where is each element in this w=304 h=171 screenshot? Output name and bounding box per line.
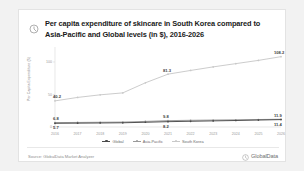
- chart-legend: GlobalAsia-PacificSouth Korea: [19, 139, 287, 144]
- data-point-label: 11.4: [274, 122, 282, 127]
- line-marker-icon: [102, 141, 110, 142]
- data-point-label: 8.2: [163, 124, 169, 129]
- legend-item-global[interactable]: Global: [102, 139, 123, 144]
- x-tick-label: 2019: [115, 132, 131, 136]
- x-tick-label: 2024: [228, 132, 244, 136]
- brand-logo: GlobalData: [242, 147, 278, 165]
- data-point-label: 6.8: [53, 116, 59, 121]
- line-marker-icon: [172, 141, 180, 142]
- legend-item-south-korea[interactable]: South Korea: [172, 139, 204, 144]
- x-tick-label: 2018: [92, 132, 108, 136]
- x-tick-label: 2017: [70, 132, 86, 136]
- data-point-label: 40.2: [53, 94, 61, 99]
- data-point-label: 81.3: [163, 68, 171, 73]
- legend-label: Asia-Pacific: [143, 139, 163, 144]
- legend-label: Global: [112, 139, 123, 144]
- x-tick-label: 2026: [273, 132, 289, 136]
- line-marker-icon: [133, 141, 141, 142]
- legend-item-asia-pacific[interactable]: Asia-Pacific: [133, 139, 163, 144]
- chart-svg: [19, 43, 287, 131]
- page-title: Per capita expenditure of skincare in So…: [45, 19, 275, 40]
- data-point-label: 11.9: [274, 113, 282, 118]
- plot-area: Per Capita Expenditure ($) 050100 40.281…: [19, 43, 287, 131]
- data-point-label: 5.7: [53, 125, 59, 130]
- chart-footer: Source: GlobalData Market Analyzer Globa…: [19, 149, 287, 163]
- x-tick-label: 2025: [250, 132, 266, 136]
- globaldata-logo-icon: [242, 147, 249, 165]
- data-point-label: 9.8: [163, 114, 169, 119]
- x-tick-label: 2023: [205, 132, 221, 136]
- source-text: Source: GlobalData Market Analyzer: [28, 154, 94, 159]
- x-tick-label: 2020: [137, 132, 153, 136]
- x-tick-label: 2022: [183, 132, 199, 136]
- legend-label: South Korea: [182, 139, 204, 144]
- chart-header: Per capita expenditure of skincare in So…: [19, 10, 285, 40]
- chart-card: Per capita expenditure of skincare in So…: [18, 9, 286, 162]
- x-tick-label: 2021: [160, 132, 176, 136]
- brand-name: GlobalData: [251, 153, 278, 159]
- data-point-label: 108.2: [274, 50, 284, 55]
- clock-icon: [29, 20, 39, 38]
- x-tick-label: 2016: [47, 132, 63, 136]
